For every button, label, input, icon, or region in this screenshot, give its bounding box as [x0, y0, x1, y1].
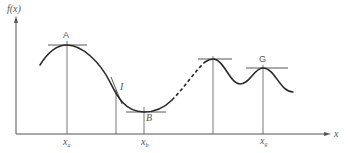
tick-label-xb: xb — [141, 137, 148, 147]
y-axis-arrow-icon — [14, 16, 18, 23]
diagram-canvas — [0, 0, 348, 153]
drop-lines — [67, 41, 263, 134]
point-label-b: B — [146, 113, 152, 123]
curve-segment-solid-2 — [205, 59, 293, 92]
point-label-i: I — [120, 82, 123, 92]
tick-label-xg: xg — [260, 136, 267, 146]
tick-label-xa: xa — [63, 137, 70, 147]
y-axis-label: f(x) — [7, 4, 21, 14]
point-label-g: G — [259, 55, 266, 64]
axes — [14, 16, 331, 136]
tangents — [48, 45, 288, 112]
x-axis-label: x — [334, 129, 338, 139]
function-diagram: f(x) x A I B G xa xb xg — [0, 0, 348, 153]
curve-segment-solid-1 — [40, 45, 172, 112]
x-axis-arrow-icon — [324, 132, 331, 136]
function-curve — [40, 45, 293, 112]
point-label-a: A — [63, 31, 69, 40]
curve-segment-dashed — [172, 62, 205, 100]
